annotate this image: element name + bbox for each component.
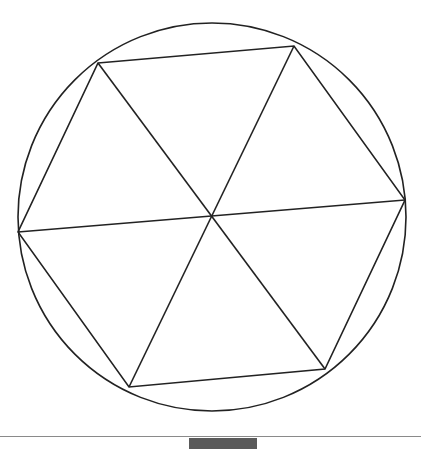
diagonal-3 (18, 200, 405, 232)
footer-divider (0, 436, 421, 437)
inscribed-hexagon-diagram (0, 0, 421, 449)
footer-tab (189, 438, 257, 449)
hexagon-diagonals (18, 46, 405, 387)
